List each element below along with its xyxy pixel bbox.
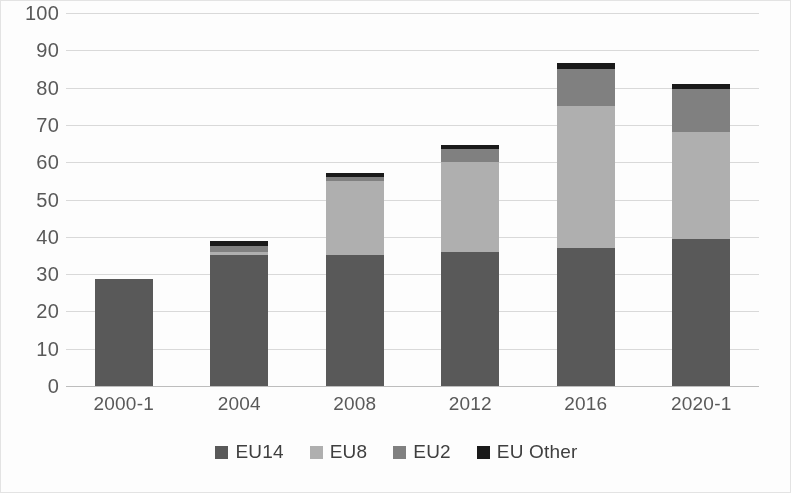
- bar-segment-eu2[interactable]: [557, 69, 615, 106]
- x-axis-tick-2020-1: 2020-1: [644, 393, 760, 425]
- legend-item-eu14[interactable]: EU14: [215, 441, 283, 463]
- legend-item-eu8[interactable]: EU8: [310, 441, 368, 463]
- x-axis-tick-2004: 2004: [182, 393, 298, 425]
- y-axis-tick-40: 40: [7, 225, 59, 248]
- y-axis-tick-80: 80: [7, 76, 59, 99]
- legend-label: EU Other: [497, 441, 578, 463]
- legend-swatch-icon: [215, 446, 228, 459]
- y-axis-tick-30: 30: [7, 263, 59, 286]
- bar-slot-2008: [297, 13, 413, 386]
- gridline-0: [66, 386, 759, 387]
- bar-segment-eu8[interactable]: [557, 106, 615, 248]
- bar-segment-eu14[interactable]: [210, 255, 268, 386]
- y-axis-tick-60: 60: [7, 151, 59, 174]
- stacked-bar-2020-1[interactable]: [672, 84, 730, 386]
- legend-swatch-icon: [310, 446, 323, 459]
- bar-segment-eu14[interactable]: [557, 248, 615, 386]
- y-axis-tick-20: 20: [7, 300, 59, 323]
- bar-slot-2000-1: [66, 13, 182, 386]
- bar-segment-eu2[interactable]: [441, 149, 499, 162]
- legend-item-eu2[interactable]: EU2: [393, 441, 451, 463]
- stacked-bar-2012[interactable]: [441, 145, 499, 386]
- x-axis-tick-2000-1: 2000-1: [66, 393, 182, 425]
- stacked-bar-2004[interactable]: [210, 241, 268, 386]
- stacked-bar-2016[interactable]: [557, 63, 615, 386]
- y-axis-tick-100: 100: [7, 2, 59, 25]
- bar-slot-2004: [182, 13, 298, 386]
- x-axis-tick-2016: 2016: [528, 393, 644, 425]
- y-axis: 1009080706050403020100: [1, 13, 59, 386]
- bar-segment-eu8[interactable]: [326, 181, 384, 256]
- y-axis-tick-0: 0: [7, 375, 59, 398]
- x-axis: 2000-120042008201220162020-1: [66, 393, 759, 425]
- chart-figure: 1009080706050403020100 2000-120042008201…: [0, 0, 791, 493]
- legend-label: EU14: [235, 441, 283, 463]
- bar-slot-2012: [413, 13, 529, 386]
- legend-swatch-icon: [393, 446, 406, 459]
- bar-group: [66, 13, 759, 386]
- plot-area: [66, 13, 759, 386]
- x-axis-tick-2012: 2012: [413, 393, 529, 425]
- bar-segment-eu2[interactable]: [672, 89, 730, 132]
- legend-swatch-icon: [477, 446, 490, 459]
- y-axis-tick-10: 10: [7, 337, 59, 360]
- y-axis-tick-70: 70: [7, 113, 59, 136]
- bar-segment-eu8[interactable]: [672, 132, 730, 238]
- bar-segment-eu14[interactable]: [326, 255, 384, 386]
- bar-slot-2020-1: [644, 13, 760, 386]
- legend-item-eu-other[interactable]: EU Other: [477, 441, 578, 463]
- bar-slot-2016: [528, 13, 644, 386]
- bar-segment-eu14[interactable]: [95, 279, 153, 386]
- bar-segment-eu8[interactable]: [441, 162, 499, 252]
- stacked-bar-2000-1[interactable]: [95, 279, 153, 386]
- x-axis-tick-2008: 2008: [297, 393, 413, 425]
- legend-label: EU8: [330, 441, 368, 463]
- y-axis-tick-90: 90: [7, 39, 59, 62]
- legend-label: EU2: [413, 441, 451, 463]
- y-axis-tick-50: 50: [7, 188, 59, 211]
- bar-segment-eu14[interactable]: [672, 239, 730, 386]
- stacked-bar-2008[interactable]: [326, 173, 384, 386]
- chart-legend: EU14EU8EU2EU Other: [1, 441, 791, 463]
- bar-segment-eu14[interactable]: [441, 252, 499, 386]
